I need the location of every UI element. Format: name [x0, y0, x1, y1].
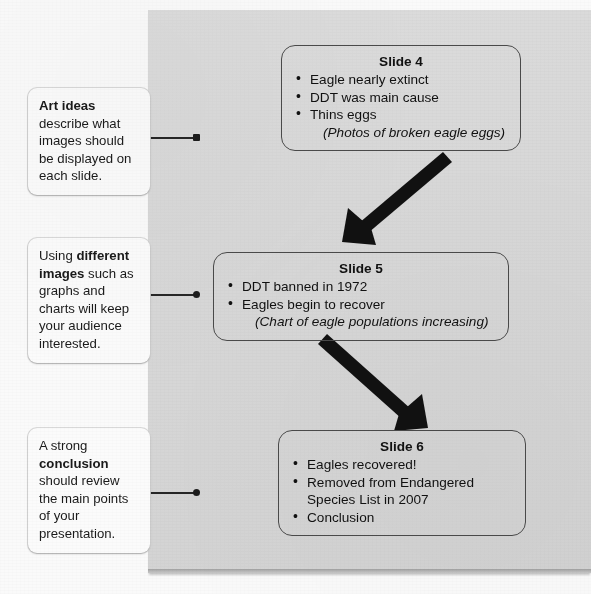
arrow-slide4-to-slide5-icon	[330, 150, 452, 250]
connector-dot-images	[193, 291, 200, 298]
slide-box-slide-4: Slide 4 Eagle nearly extinct DDT was mai…	[281, 45, 521, 151]
callout-conclusion: A strong conclusion should review the ma…	[28, 428, 150, 553]
callout-art-ideas: Art ideas describe what images should be…	[28, 88, 150, 195]
slide-5-bullet: Eagles begin to recover	[227, 296, 495, 314]
callout-different-images: Using different images such as graphs an…	[28, 238, 150, 363]
connector-line-conclusion	[150, 492, 197, 494]
slide-4-bullet: Eagle nearly extinct	[295, 71, 507, 89]
slide-6-title: Slide 6	[292, 438, 512, 455]
connector-dot-art-ideas	[193, 134, 200, 141]
callout-conclusion-body: should review the main points of your pr…	[39, 473, 128, 541]
slide-4-title: Slide 4	[295, 53, 507, 70]
slide-box-slide-5: Slide 5 DDT banned in 1972 Eagles begin …	[213, 252, 509, 341]
slide-6-bullet: Removed from Endangered Species List in …	[292, 474, 512, 509]
connector-line-images	[150, 294, 197, 296]
callout-art-ideas-lead: Art ideas	[39, 98, 95, 113]
slide-4-bullet: DDT was main cause	[295, 89, 507, 107]
slide-5-art-note: (Chart of eagle populations increasing)	[227, 313, 495, 331]
callout-conclusion-lead: conclusion	[39, 456, 109, 471]
callout-different-images-pre: Using	[39, 248, 76, 263]
connector-dot-conclusion	[193, 489, 200, 496]
slide-4-bullet: Thins eggs	[295, 106, 507, 124]
slide-6-bullet: Eagles recovered!	[292, 456, 512, 474]
slide-5-bullet-list: DDT banned in 1972 Eagles begin to recov…	[227, 278, 495, 313]
slide-4-art-note: (Photos of broken eagle eggs)	[295, 124, 507, 142]
arrow-slide5-to-slide6-icon	[318, 332, 440, 436]
panel-drop-shadow	[148, 569, 591, 574]
callout-conclusion-pre: A strong	[39, 438, 87, 453]
slide-box-slide-6: Slide 6 Eagles recovered! Removed from E…	[278, 430, 526, 536]
slide-6-bullet: Conclusion	[292, 509, 512, 527]
slide-5-bullet: DDT banned in 1972	[227, 278, 495, 296]
slide-5-title: Slide 5	[227, 260, 495, 277]
callout-art-ideas-body: describe what images should be displayed…	[39, 116, 131, 184]
slide-4-bullet-list: Eagle nearly extinct DDT was main cause …	[295, 71, 507, 124]
slide-6-bullet-list: Eagles recovered! Removed from Endangere…	[292, 456, 512, 526]
connector-line-art-ideas	[150, 137, 197, 139]
